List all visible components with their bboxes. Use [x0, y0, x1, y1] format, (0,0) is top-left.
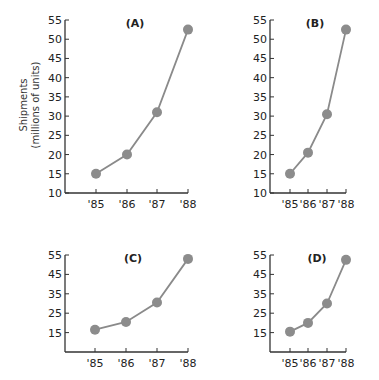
y-tick-label: 35 — [253, 91, 267, 104]
data-point — [122, 150, 132, 160]
x-tick-label: '86 — [299, 357, 316, 370]
y-tick-label: 50 — [253, 33, 267, 46]
y-tick-label: 25 — [48, 307, 62, 320]
data-line — [96, 30, 188, 174]
data-point — [152, 298, 162, 308]
y-tick-label: 25 — [48, 129, 62, 142]
y-tick-label: 55 — [48, 249, 62, 262]
y-axis-label-line2: (millions of units) — [30, 61, 41, 148]
x-tick-label: '87 — [148, 198, 165, 211]
y-tick-label: 45 — [253, 268, 267, 281]
x-tick-label: '86 — [118, 198, 135, 211]
data-point — [341, 25, 351, 35]
x-tick-label: '88 — [179, 198, 196, 211]
y-tick-label: 50 — [48, 33, 62, 46]
data-point — [91, 169, 101, 179]
y-tick-label: 15 — [253, 168, 267, 181]
data-line — [95, 259, 188, 330]
y-tick-label: 10 — [253, 187, 267, 200]
y-tick-label: 45 — [253, 52, 267, 65]
x-tick-label: '88 — [337, 198, 354, 211]
y-axis-label: Shipments (millions of units) — [18, 61, 41, 148]
y-tick-label: 15 — [253, 327, 267, 340]
data-point — [183, 25, 193, 35]
x-tick-label: '85 — [87, 198, 104, 211]
data-line — [290, 260, 346, 332]
y-axis-label-line1: Shipments — [18, 78, 29, 131]
y-tick-label: 45 — [48, 52, 62, 65]
y-tick-label: 35 — [48, 91, 62, 104]
x-tick-label: '87 — [318, 357, 335, 370]
y-tick-label: 55 — [253, 249, 267, 262]
data-point — [285, 327, 295, 337]
y-tick-label: 20 — [253, 149, 267, 162]
y-tick-label: 15 — [48, 168, 62, 181]
y-tick-label: 55 — [48, 14, 62, 27]
data-point — [322, 299, 332, 309]
chart-panel-a: 10152025303540455055'85'86'87'88(A) — [48, 14, 197, 211]
x-tick-label: '85 — [281, 357, 298, 370]
x-tick-label: '86 — [117, 357, 134, 370]
x-tick-label: '85 — [281, 198, 298, 211]
panel-title: (A) — [126, 17, 145, 30]
x-tick-label: '87 — [148, 357, 165, 370]
data-line — [290, 30, 346, 174]
data-point — [183, 254, 193, 264]
chart-panel-b: 10152025303540455055'85'86'87'88(B) — [253, 14, 355, 211]
y-tick-label: 40 — [48, 72, 62, 85]
data-point — [90, 325, 100, 335]
y-tick-label: 20 — [48, 149, 62, 162]
y-tick-label: 25 — [253, 307, 267, 320]
panel-title: (D) — [307, 252, 326, 265]
data-point — [152, 107, 162, 117]
y-tick-label: 10 — [48, 187, 62, 200]
panel-title: (C) — [124, 252, 142, 265]
data-point — [285, 169, 295, 179]
x-tick-label: '86 — [299, 198, 316, 211]
x-tick-label: '87 — [318, 198, 335, 211]
data-point — [303, 148, 313, 158]
panel-title: (B) — [306, 17, 324, 30]
data-point — [341, 255, 351, 265]
x-tick-label: '88 — [337, 357, 354, 370]
y-tick-label: 45 — [48, 268, 62, 281]
y-tick-label: 15 — [48, 327, 62, 340]
y-tick-label: 35 — [48, 288, 62, 301]
chart-grid: Shipments (millions of units) 1015202530… — [0, 0, 379, 380]
data-point — [322, 109, 332, 119]
x-tick-label: '88 — [179, 357, 196, 370]
y-tick-label: 25 — [253, 129, 267, 142]
data-point — [121, 317, 131, 327]
y-tick-label: 35 — [253, 288, 267, 301]
y-tick-label: 55 — [253, 14, 267, 27]
y-tick-label: 30 — [253, 110, 267, 123]
y-tick-label: 30 — [48, 110, 62, 123]
chart-panel-c: 1525354555'85'86'87'88(C) — [48, 249, 197, 370]
chart-panel-d: 1525354555'85'86'87'88(D) — [253, 249, 355, 370]
x-tick-label: '85 — [86, 357, 103, 370]
y-tick-label: 40 — [253, 72, 267, 85]
data-point — [303, 318, 313, 328]
